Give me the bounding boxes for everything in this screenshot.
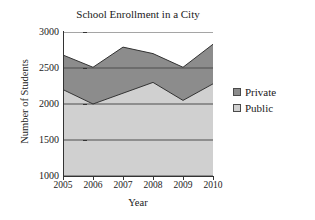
y-tick-mark xyxy=(83,104,87,105)
y-tick-label: 2000 xyxy=(25,99,59,109)
x-tick-label: 2006 xyxy=(84,180,103,191)
chart-legend: PrivatePublic xyxy=(233,84,313,116)
y-tick-label: 3000 xyxy=(25,27,59,37)
x-tick-label: 2008 xyxy=(144,180,163,191)
chart-figure: School Enrollment in a City Number of St… xyxy=(0,0,315,220)
chart-title: School Enrollment in a City xyxy=(58,8,218,21)
x-tick-mark xyxy=(93,176,94,180)
y-tick-label: 2500 xyxy=(25,63,59,73)
x-tick-mark xyxy=(123,176,124,180)
x-tick-label: 2007 xyxy=(114,180,133,191)
legend-label: Public xyxy=(245,102,273,114)
x-tick-label: 2009 xyxy=(174,180,193,191)
legend-label: Private xyxy=(245,86,276,98)
x-tick-mark xyxy=(183,176,184,180)
y-tick-mark xyxy=(83,68,87,69)
legend-swatch-icon xyxy=(233,104,241,112)
y-axis-line xyxy=(63,31,64,177)
y-tick-label: 1500 xyxy=(25,135,59,145)
x-tick-mark xyxy=(213,176,214,180)
x-axis-tick-labels: 200520062007200820092010 xyxy=(63,180,214,194)
x-axis-title: Year xyxy=(58,197,218,208)
x-tick-mark xyxy=(63,176,64,180)
legend-item-public[interactable]: Public xyxy=(233,100,313,115)
x-tick-label: 2005 xyxy=(54,180,73,191)
x-tick-mark xyxy=(153,176,154,180)
legend-swatch-icon xyxy=(233,88,241,96)
y-tick-mark xyxy=(83,32,87,33)
x-tick-label: 2010 xyxy=(204,180,223,191)
y-tick-mark xyxy=(83,176,87,177)
legend-item-private[interactable]: Private xyxy=(233,84,313,99)
y-tick-mark xyxy=(83,140,87,141)
